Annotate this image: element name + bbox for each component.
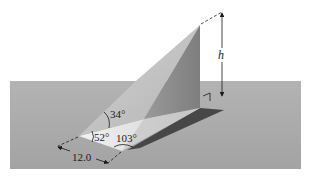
angle-label-52: 52° — [94, 131, 109, 143]
height-label: h — [218, 48, 224, 62]
angle-label-34: 34° — [110, 108, 125, 120]
base-length-label: 12.0 — [72, 151, 92, 163]
pyramid-diagram: h 34° 52° 103° 12.0 — [0, 0, 309, 176]
angle-label-103: 103° — [116, 132, 137, 144]
height-extension-dashed — [201, 12, 222, 24]
